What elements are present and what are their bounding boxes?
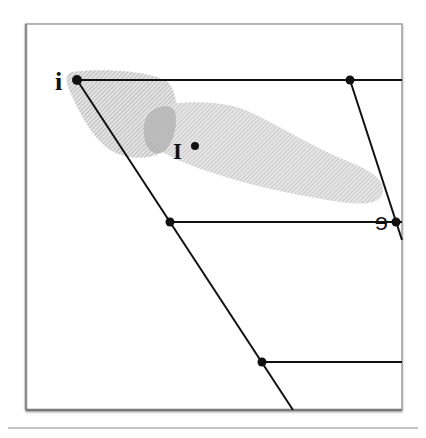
- point-mid-front: [166, 218, 175, 227]
- vowel-diagram: i I e: [0, 0, 426, 438]
- label-I: I: [173, 139, 182, 164]
- point-I: [191, 142, 199, 150]
- point-low-front: [258, 358, 267, 367]
- label-i: i: [55, 67, 62, 96]
- point-i: [72, 75, 82, 85]
- label-e-mirrored: e: [375, 208, 388, 235]
- point-top-back: [346, 76, 355, 85]
- point-e: [392, 218, 401, 227]
